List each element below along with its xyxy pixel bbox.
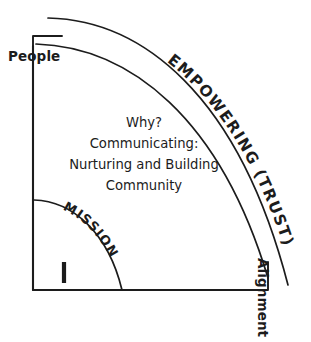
mission-text: MISSION bbox=[61, 199, 121, 261]
diagram-canvas: People Alignment EMPOWERING (TRUST) MISS… bbox=[0, 0, 311, 342]
alignment-axis-label: Alignment bbox=[255, 258, 271, 338]
center-text-line-1: Why? bbox=[126, 115, 162, 130]
quadrant-diagram: People Alignment EMPOWERING (TRUST) MISS… bbox=[0, 0, 311, 342]
vertical-axis bbox=[33, 36, 62, 290]
center-text-line-2: Communicating: bbox=[90, 136, 199, 151]
center-text-line-4: Community bbox=[106, 178, 183, 193]
center-text-line-3: Nurturing and Building bbox=[69, 157, 219, 172]
mission-arc-label: MISSION bbox=[61, 199, 121, 261]
people-axis-label: People bbox=[8, 48, 60, 64]
horizontal-axis bbox=[33, 262, 268, 290]
center-text-block: Why? Communicating: Nurturing and Buildi… bbox=[69, 115, 219, 193]
